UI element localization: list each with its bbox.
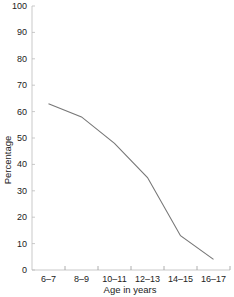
y-tick-label: 100 xyxy=(12,1,27,11)
y-tick-label: 30 xyxy=(17,186,27,196)
x-tick-label: 12–13 xyxy=(135,274,160,284)
y-tick-label: 50 xyxy=(17,133,27,143)
x-axis-title: Age in years xyxy=(104,284,157,295)
y-axis: 0102030405060708090100 xyxy=(12,1,35,275)
y-tick-label: 70 xyxy=(17,80,27,90)
y-tick-label: 0 xyxy=(22,265,27,275)
y-axis-title: Percentage xyxy=(2,136,13,185)
x-axis: 6–78–910–1112–1314–1516–17 xyxy=(32,266,230,284)
y-tick-label: 40 xyxy=(17,159,27,169)
line-chart: 0102030405060708090100 6–78–910–1112–131… xyxy=(0,0,234,297)
x-tick-label: 10–11 xyxy=(102,274,126,284)
y-tick-label: 80 xyxy=(17,54,27,64)
percentage-line xyxy=(49,104,214,260)
y-tick-label: 10 xyxy=(17,239,27,249)
x-tick-label: 6–7 xyxy=(41,274,56,284)
x-tick-label: 14–15 xyxy=(168,274,193,284)
y-tick-label: 60 xyxy=(17,107,27,117)
x-tick-label: 8–9 xyxy=(74,274,89,284)
y-tick-label: 90 xyxy=(17,27,27,37)
y-tick-label: 20 xyxy=(17,212,27,222)
x-tick-label: 16–17 xyxy=(201,274,226,284)
